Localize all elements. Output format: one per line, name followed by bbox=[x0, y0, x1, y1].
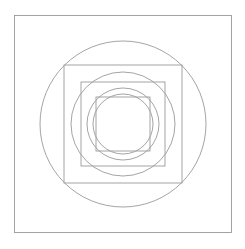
diagram-background bbox=[0, 0, 245, 249]
concentric-shapes-diagram bbox=[0, 0, 245, 249]
figure-canvas bbox=[0, 0, 245, 249]
